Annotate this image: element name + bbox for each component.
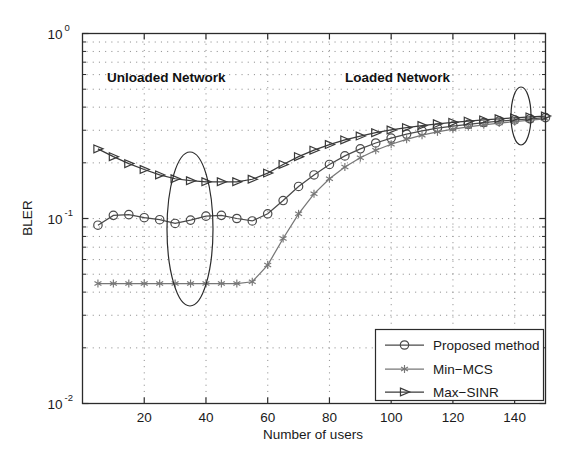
y-tick-label: 10-1 [47, 207, 72, 227]
annotation-loaded-network: Loaded Network [345, 70, 451, 85]
x-tick-label: 140 [503, 410, 526, 425]
series-min-mcs [94, 115, 548, 288]
svg-text:10: 10 [47, 397, 62, 412]
x-tick-label: 20 [137, 410, 152, 425]
svg-text:10: 10 [47, 27, 62, 42]
x-tick-label: 60 [260, 410, 275, 425]
legend: Proposed methodMin−MCSMax−SINR [376, 330, 544, 401]
svg-text:-2: -2 [65, 392, 73, 403]
chart-figure: 2040608010012014010-210-1100 Number of u… [0, 0, 580, 461]
x-tick-label: 40 [198, 410, 213, 425]
x-tick-label: 80 [322, 410, 337, 425]
legend-label: Max−SINR [433, 385, 499, 400]
legend-label: Min−MCS [433, 362, 493, 377]
y-tick-label: 10-2 [47, 392, 72, 412]
x-axis-label: Number of users [263, 427, 363, 442]
data-series-layer [94, 112, 551, 287]
x-tick-label: 120 [442, 410, 465, 425]
highlight-ellipses [167, 87, 531, 306]
svg-text:0: 0 [65, 22, 70, 33]
series-max-sinr [94, 112, 551, 185]
y-axis-label: BLER [20, 200, 35, 236]
series-proposed-method [94, 113, 550, 229]
svg-text:-1: -1 [65, 207, 73, 218]
bler-vs-users-chart: 2040608010012014010-210-1100 Number of u… [0, 0, 580, 461]
svg-text:10: 10 [47, 212, 62, 227]
legend-label: Proposed method [433, 338, 540, 353]
annotation-unloaded-network: Unloaded Network [107, 70, 226, 85]
x-tick-label: 100 [380, 410, 403, 425]
y-tick-label: 100 [47, 22, 69, 42]
